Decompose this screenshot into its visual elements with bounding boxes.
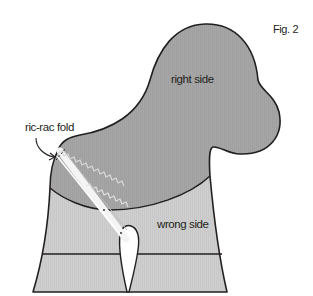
diagram-figure: Fig. 2 right side wrong side ric-rac fol… (0, 0, 313, 296)
right-side-label: right side (171, 73, 214, 85)
figure-number: Fig. 2 (273, 23, 298, 35)
ricrac-fold-label: ric-rac fold (25, 121, 74, 133)
pointer-arrow (36, 138, 55, 160)
garment-illustration (0, 0, 313, 296)
wrong-side-label: wrong side (157, 218, 209, 230)
